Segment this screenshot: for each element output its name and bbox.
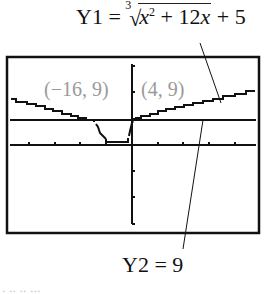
intersection-label-left: (−16, 9) (44, 78, 109, 101)
calculator-graph (0, 0, 265, 294)
y2-equation: Y2 = 9 (122, 252, 183, 278)
y1-leader-line (200, 43, 221, 103)
intersection-label-right: (4, 9) (141, 78, 184, 101)
cropped-footer-text: ∙ ∙∙ ∙∙ ∙∙∙ (2, 284, 41, 294)
y2-leader-line (183, 120, 203, 249)
